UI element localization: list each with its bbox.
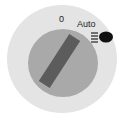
position-label-off: 0 bbox=[59, 15, 64, 24]
headlight-icon bbox=[90, 31, 114, 43]
position-label-auto: Auto bbox=[77, 20, 96, 29]
